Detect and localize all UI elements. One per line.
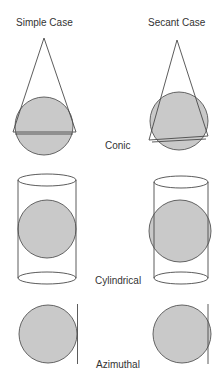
azimuthal-secant-figure bbox=[153, 304, 211, 364]
map-projection-diagram: Simple Case Secant Case Conic Cylindrica… bbox=[0, 0, 224, 382]
label-cylindrical: Cylindrical bbox=[95, 275, 141, 286]
cylinder-bottom bbox=[18, 272, 76, 284]
azimuthal-simple-figure bbox=[19, 304, 78, 364]
globe-circle bbox=[19, 305, 77, 363]
cylinder-top bbox=[18, 174, 76, 186]
cylindrical-simple-figure bbox=[18, 174, 76, 284]
label-conic: Conic bbox=[105, 140, 131, 151]
conic-secant-figure bbox=[149, 40, 208, 150]
header-simple-case: Simple Case bbox=[16, 17, 73, 28]
conic-simple-figure bbox=[13, 38, 76, 155]
cylinder-top bbox=[154, 176, 208, 188]
cylindrical-secant-figure bbox=[149, 176, 211, 284]
label-azimuthal: Azimuthal bbox=[96, 359, 140, 370]
globe-circle bbox=[153, 305, 211, 363]
cylinder-bottom bbox=[154, 272, 208, 284]
globe-circle bbox=[18, 200, 76, 258]
header-secant-case: Secant Case bbox=[148, 17, 206, 28]
globe-circle bbox=[15, 97, 73, 155]
globe-circle bbox=[149, 200, 211, 262]
